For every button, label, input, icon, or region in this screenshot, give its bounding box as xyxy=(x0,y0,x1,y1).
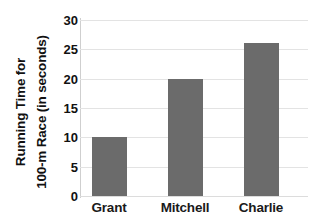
y-axis-tick-label-15: 15 xyxy=(54,102,78,115)
gridline-0 xyxy=(80,196,308,197)
bars xyxy=(80,20,308,196)
y-axis-title: Running Time for 100-m Race (in seconds) xyxy=(0,0,56,224)
bar-chart: Running Time for 100-m Race (in seconds)… xyxy=(0,0,312,224)
bar-grant xyxy=(92,137,127,196)
x-axis-label-grant: Grant xyxy=(91,198,126,218)
plot-area xyxy=(80,20,308,196)
y-axis-tick-label-30: 30 xyxy=(54,14,78,27)
y-axis-tick-labels: 051015202530 xyxy=(54,0,78,224)
bar-charlie xyxy=(244,43,279,196)
y-axis-tick-label-20: 20 xyxy=(54,72,78,85)
bar-mitchell xyxy=(168,79,203,196)
y-axis-title-line-2: 100-m Race (in seconds) xyxy=(31,0,53,224)
x-axis-label-mitchell: Mitchell xyxy=(161,198,210,218)
x-axis-category-labels: GrantMitchellCharlie xyxy=(80,198,308,222)
x-axis-label-charlie: Charlie xyxy=(239,198,283,218)
y-axis-tick-label-25: 25 xyxy=(54,43,78,56)
y-axis-tick-label-5: 5 xyxy=(54,160,78,173)
y-axis-title-line-1: Running Time for xyxy=(10,0,32,224)
y-axis-tick-label-0: 0 xyxy=(54,190,78,203)
y-axis-tick-label-10: 10 xyxy=(54,131,78,144)
